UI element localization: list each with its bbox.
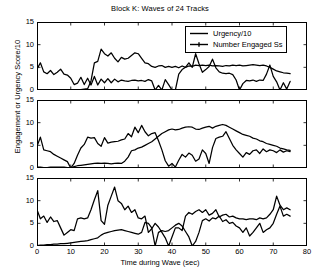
y-tick-label: 0 bbox=[30, 86, 34, 94]
x-tick-label: 70 bbox=[269, 248, 277, 256]
chart-title: Block K: Waves of 24 Tracks bbox=[0, 4, 320, 13]
plot-area-panel-3 bbox=[37, 178, 307, 246]
figure-root: Block K: Waves of 24 Tracks Engagement o… bbox=[0, 0, 320, 274]
y-tick-label: 10 bbox=[26, 41, 34, 49]
x-tick-label: 10 bbox=[67, 248, 75, 256]
x-tick-label: 80 bbox=[303, 248, 311, 256]
legend-label-urgency: Urgency/10 bbox=[213, 29, 251, 38]
y-tick-label: 5 bbox=[30, 64, 34, 72]
x-tick-label: 60 bbox=[235, 248, 243, 256]
subplot-panel-2: 051015 bbox=[37, 100, 307, 168]
x-tick-label: 40 bbox=[168, 248, 176, 256]
x-tick-label: 0 bbox=[35, 248, 39, 256]
x-tick-label: 50 bbox=[202, 248, 210, 256]
x-tick-label: 20 bbox=[100, 248, 108, 256]
series-line-number-engaged-ss bbox=[37, 125, 290, 168]
y-tick-label: 5 bbox=[30, 142, 34, 150]
y-tick-label: 5 bbox=[30, 220, 34, 228]
axes-frame bbox=[38, 101, 307, 168]
legend-item-urgency: Urgency/10 bbox=[189, 28, 283, 39]
legend: Urgency/10 Number Engaged Ss bbox=[185, 26, 287, 53]
y-axis-label: Engagement or Urgency Score/10 bbox=[13, 22, 22, 172]
legend-line-sample-urgency bbox=[189, 29, 209, 38]
legend-item-engaged: Number Engaged Ss bbox=[189, 39, 283, 50]
y-tick-label: 10 bbox=[26, 119, 34, 127]
legend-label-engaged: Number Engaged Ss bbox=[213, 40, 283, 49]
series-line-number-engaged-ss bbox=[37, 54, 290, 90]
x-tick-label: 30 bbox=[134, 248, 142, 256]
plot-area-panel-2 bbox=[37, 100, 307, 168]
y-tick-label: 15 bbox=[26, 96, 34, 104]
y-tick-label: 0 bbox=[30, 164, 34, 172]
y-tick-label: 0 bbox=[30, 242, 34, 250]
series-line-number-engaged-ss bbox=[37, 187, 290, 246]
legend-line-sample-engaged bbox=[189, 40, 209, 49]
subplot-panel-3: 05101501020304050607080 bbox=[37, 178, 307, 246]
x-axis-label: Time during Wave (sec) bbox=[0, 258, 320, 267]
y-tick-label: 15 bbox=[26, 18, 34, 26]
y-tick-label: 10 bbox=[26, 197, 34, 205]
y-tick-label: 15 bbox=[26, 174, 34, 182]
